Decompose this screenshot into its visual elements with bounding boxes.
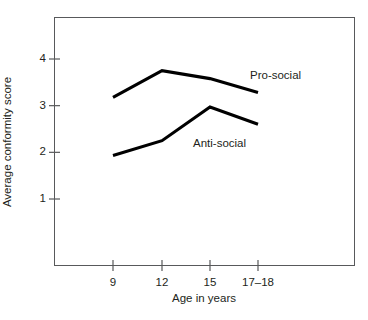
y-tick-label: 3 (28, 100, 46, 112)
x-axis-ticks (113, 260, 258, 271)
y-axis-title: Average conformity score (2, 77, 14, 207)
y-tick-label: 4 (28, 53, 46, 65)
series-label-anti-social: Anti-social (193, 138, 246, 150)
figure-container: 1234 9121517–18 Average conformity score… (0, 0, 368, 320)
x-axis-title: Age in years (172, 293, 236, 305)
chart-canvas (0, 0, 368, 320)
y-tick-label: 2 (28, 147, 46, 159)
x-tick-label: 15 (204, 277, 217, 289)
x-tick-label: 12 (156, 277, 169, 289)
y-tick-label: 1 (28, 193, 46, 205)
series-line-pro-social (113, 71, 258, 98)
y-axis-ticks (49, 59, 60, 199)
x-tick-label: 9 (110, 277, 116, 289)
x-tick-label: 17–18 (242, 277, 274, 289)
series-label-pro-social: Pro-social (250, 70, 301, 82)
